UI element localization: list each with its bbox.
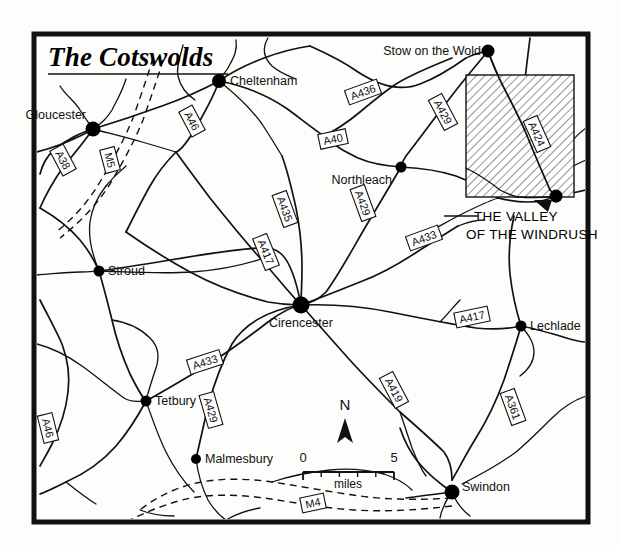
town-dot: [141, 396, 152, 407]
town-label: Swindon: [462, 480, 510, 494]
scale-max-label: 5: [390, 450, 397, 465]
scale-unit-label: miles: [334, 477, 362, 491]
town-dot: [94, 266, 105, 277]
town-stow-on-the-wold[interactable]: Stow on the Wold: [383, 44, 494, 58]
town-stroud[interactable]: Stroud: [94, 264, 145, 278]
town-dot: [445, 485, 460, 500]
scale-min-label: 0: [299, 450, 306, 465]
town-dot: [86, 122, 101, 137]
map-title-group: The Cotswolds: [48, 42, 228, 74]
town-label: Malmesbury: [205, 452, 274, 466]
north-arrow-label: N: [340, 396, 351, 413]
town-dot: [516, 321, 527, 332]
town-label: Gloucester: [26, 108, 86, 122]
town-dot: [396, 162, 407, 173]
town-label: Stroud: [108, 264, 145, 278]
inset-caption-line2: OF THE WINDRUSH: [466, 227, 598, 242]
town-dot: [293, 297, 310, 314]
town-label: Cirencester: [269, 316, 333, 330]
map-canvas: The Cotswolds THE VALLEY OF THE WINDRUSH…: [0, 0, 619, 545]
town-label: Tetbury: [155, 394, 197, 408]
cotswolds-map: The Cotswolds THE VALLEY OF THE WINDRUSH…: [0, 0, 619, 545]
town-dot: [191, 454, 201, 464]
town-dot: [212, 74, 226, 88]
inset-caption-line1: THE VALLEY: [474, 209, 558, 224]
town-label: Stow on the Wold: [383, 44, 481, 58]
town-label: Lechlade: [530, 319, 581, 333]
town-label: Cheltenham: [230, 74, 297, 88]
page-title: The Cotswolds: [48, 42, 213, 72]
town-dot: [482, 45, 495, 58]
inset-hatched-box: [466, 75, 574, 197]
